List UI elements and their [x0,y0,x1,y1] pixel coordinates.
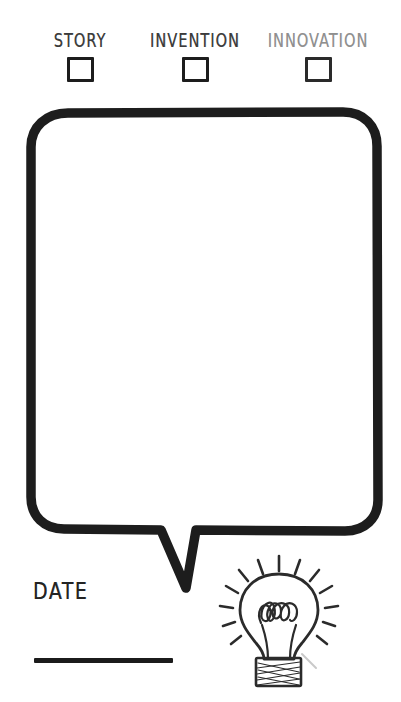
category-label-invention: INVENTION [143,28,248,52]
stray-pencil-mark [302,654,316,668]
lightbulb-base-hatching [257,662,300,685]
lightbulb-glass [240,574,318,659]
worksheet-page: STORY INVENTION INNOVATION [0,0,401,702]
category-label-innovation: INNOVATION [258,28,378,52]
lightbulb-icon [220,556,338,686]
lightbulb-filament [259,603,297,623]
category-invention[interactable]: INVENTION [140,28,250,82]
checkbox-invention[interactable] [182,57,209,82]
date-input-line[interactable] [34,658,173,663]
date-label: DATE [33,578,88,605]
category-label-story: STORY [38,28,122,52]
lightbulb-filament-legs [262,625,296,659]
lightbulb-rays [220,556,338,644]
category-innovation[interactable]: INNOVATION [255,28,381,82]
category-row: STORY INVENTION INNOVATION [0,28,401,98]
category-story[interactable]: STORY [36,28,124,82]
lightbulb-base [256,658,301,686]
idea-text-field[interactable] [44,124,364,522]
checkbox-innovation[interactable] [305,57,332,82]
checkbox-story[interactable] [67,57,94,82]
